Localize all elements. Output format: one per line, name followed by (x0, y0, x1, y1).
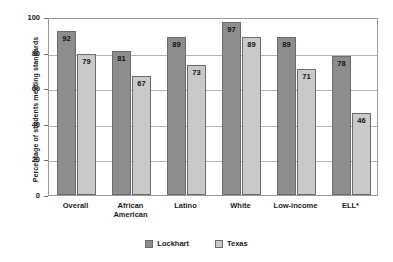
bar-group: 9279 (57, 19, 96, 195)
y-axis-title: Percentage of students meeting standards (32, 15, 39, 205)
legend-label: Texas (227, 240, 248, 248)
legend-label: Lockhart (157, 240, 189, 248)
x-tick-label-line: American (86, 210, 176, 219)
y-tick-mark (44, 196, 48, 197)
chart-legend: LockhartTexas (0, 240, 393, 248)
bar-value-label: 89 (278, 41, 295, 49)
bar-texas-white[interactable]: 89 (242, 37, 261, 195)
bar-texas-latino[interactable]: 73 (187, 65, 206, 195)
legend-item-lockhart[interactable]: Lockhart (145, 240, 189, 248)
bar-value-label: 46 (353, 117, 370, 125)
y-tick-label: 60 (0, 85, 40, 93)
gridline (49, 126, 377, 127)
y-tick-label: 80 (0, 50, 40, 58)
bar-lockhart-white[interactable]: 97 (222, 22, 241, 195)
bar-group: 8971 (277, 19, 316, 195)
y-tick-label: 0 (0, 192, 40, 200)
bar-group: 8973 (167, 19, 206, 195)
bar-lockhart-ell[interactable]: 78 (332, 56, 351, 195)
plot-area: 927981678973978989717846 (48, 18, 378, 196)
bar-lockhart-overall[interactable]: 92 (57, 31, 76, 195)
y-tick-label: 40 (0, 121, 40, 129)
bar-chart: Percentage of students meeting standards… (0, 0, 393, 262)
gridline (49, 55, 377, 56)
legend-item-texas[interactable]: Texas (215, 240, 248, 248)
bar-group: 7846 (332, 19, 371, 195)
gridline (49, 161, 377, 162)
bar-texas-ell[interactable]: 46 (352, 113, 371, 195)
legend-swatch-icon (145, 240, 153, 248)
bar-value-label: 67 (133, 80, 150, 88)
bar-value-label: 97 (223, 26, 240, 34)
bar-texas-african-american[interactable]: 67 (132, 76, 151, 195)
y-tick-label: 20 (0, 156, 40, 164)
bar-value-label: 79 (78, 58, 95, 66)
x-tick-label-line: ELL* (306, 201, 393, 210)
x-tick-label: ELL* (306, 201, 393, 210)
bar-value-label: 81 (113, 55, 130, 63)
bar-lockhart-low-income[interactable]: 89 (277, 37, 296, 195)
bar-lockhart-latino[interactable]: 89 (167, 37, 186, 195)
bar-value-label: 89 (168, 41, 185, 49)
bar-group: 8167 (112, 19, 151, 195)
gridline (49, 90, 377, 91)
bar-value-label: 89 (243, 41, 260, 49)
y-tick-label: 100 (0, 14, 40, 22)
bar-value-label: 73 (188, 69, 205, 77)
bar-texas-low-income[interactable]: 71 (297, 69, 316, 195)
bar-value-label: 71 (298, 73, 315, 81)
bar-value-label: 92 (58, 35, 75, 43)
bar-group: 9789 (222, 19, 261, 195)
bar-texas-overall[interactable]: 79 (77, 54, 96, 195)
legend-swatch-icon (215, 240, 223, 248)
bar-lockhart-african-american[interactable]: 81 (112, 51, 131, 195)
bar-value-label: 78 (333, 60, 350, 68)
